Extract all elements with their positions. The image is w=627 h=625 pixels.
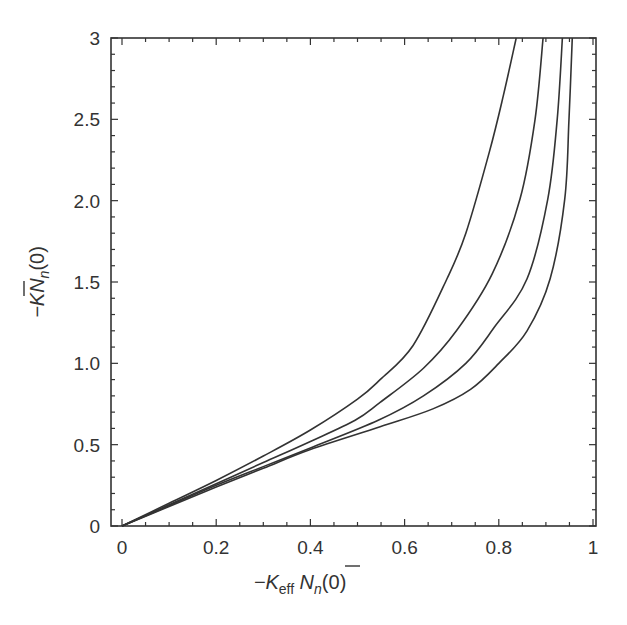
x-tick-label: 0 — [117, 537, 128, 558]
x-tick-label: 0.8 — [486, 537, 512, 558]
curve-2-line — [122, 38, 543, 526]
axis-ticks — [111, 38, 596, 526]
x-axis-title: −Keff Nn(0) — [254, 571, 347, 597]
y-tick-label: 3 — [89, 28, 100, 49]
x-tick-label: 0.2 — [203, 537, 229, 558]
x-tick-label: 0.6 — [391, 537, 417, 558]
chart: 00.20.40.60.81 00.51.01.52.02.53 −Keff N… — [0, 0, 627, 625]
y-tick-label: 1.0 — [74, 353, 100, 374]
y-tick-label: 2.0 — [74, 191, 100, 212]
curve-1-line — [122, 38, 516, 526]
plot-curves — [122, 38, 572, 526]
y-axis-title-group: −KNn(0) — [24, 246, 52, 318]
y-tick-labels: 00.51.01.52.02.53 — [74, 28, 100, 537]
x-tick-label: 1 — [588, 537, 599, 558]
x-tick-label: 0.4 — [297, 537, 324, 558]
plot-frame — [111, 38, 596, 526]
curve-3-line — [122, 38, 562, 526]
y-tick-label: 0.5 — [74, 435, 100, 456]
y-tick-label: 2.5 — [74, 109, 100, 130]
y-tick-label: 1.5 — [74, 272, 100, 293]
curve-4-line — [122, 38, 572, 526]
y-axis-title: −KNn(0) — [26, 246, 52, 318]
y-tick-label: 0 — [89, 516, 100, 537]
x-tick-labels: 00.20.40.60.81 — [117, 537, 599, 558]
